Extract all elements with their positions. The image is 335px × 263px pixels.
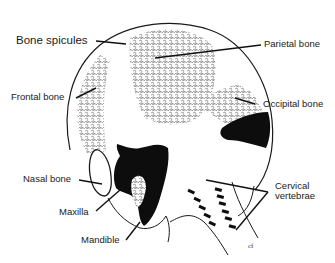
parietal-bone-region (130, 30, 216, 125)
label-nasal-bone: Nasal bone (23, 174, 71, 184)
neck-outline (170, 216, 228, 255)
frontal-bone-region (77, 55, 110, 160)
label-occipital-bone: Occipital bone (263, 99, 323, 109)
cervical-vertebrae-marks (187, 187, 236, 229)
artist-signature: cf (248, 242, 254, 250)
label-mandible: Mandible (81, 235, 120, 245)
label-bone-spicules: Bone spicules (16, 34, 88, 47)
skull-diagram: cf Bone spicules Parietal bone Frontal b… (0, 0, 335, 263)
label-frontal-bone: Frontal bone (11, 92, 64, 102)
label-maxilla: Maxilla (59, 207, 89, 217)
label-parietal-bone: Parietal bone (264, 39, 320, 49)
label-cervical-vertebrae: Cervical vertebrae (275, 181, 315, 202)
orbit-outline (89, 150, 111, 196)
